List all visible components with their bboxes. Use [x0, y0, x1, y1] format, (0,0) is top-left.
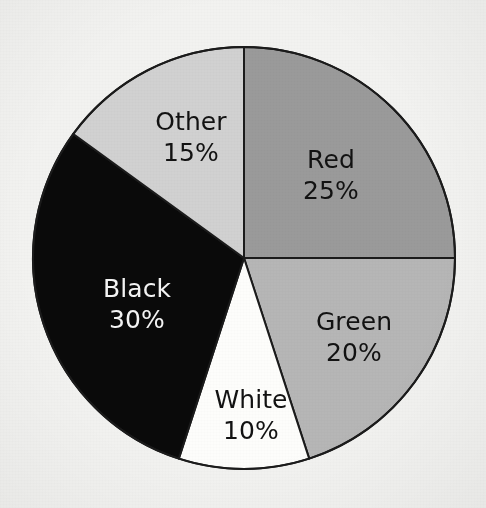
pie-chart: Red25%Green20%White10%Black30%Other15% [0, 0, 486, 508]
slice-label-percent-black: 30% [109, 305, 165, 334]
slice-label-name-red: Red [307, 145, 355, 174]
slice-label-percent-green: 20% [326, 338, 382, 367]
slice-label-name-black: Black [103, 274, 172, 303]
slice-label-percent-white: 10% [223, 416, 279, 445]
pie-chart-page: Red25%Green20%White10%Black30%Other15% [0, 0, 486, 508]
slice-label-name-white: White [214, 385, 287, 414]
slice-label-percent-other: 15% [163, 138, 219, 167]
slice-label-percent-red: 25% [303, 176, 359, 205]
slice-label-name-green: Green [316, 307, 392, 336]
slice-label-name-other: Other [155, 107, 227, 136]
